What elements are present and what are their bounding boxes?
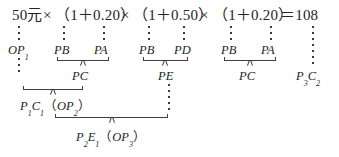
annotation-p2e1-inner-sub: 3 [129, 140, 133, 149]
leader-dots-pe-lower [168, 84, 170, 114]
annotation-pa-2: PA [261, 44, 275, 57]
annotation-p1c1-paren-open: （ [44, 99, 57, 113]
brace-p2e1 [55, 114, 168, 123]
annotation-pb-1: PB [54, 44, 69, 57]
annotation-right-terminal-c: C [308, 69, 316, 83]
equation-segment-result: ＝108 [280, 8, 318, 23]
brace-p2e1-end-right [167, 114, 168, 118]
annotation-pa-1: PA [94, 44, 108, 57]
brace-pc-1-end-right [108, 57, 109, 61]
equation-segment-base: 50元 [12, 8, 43, 23]
annotation-right-terminal: P3C2 [296, 70, 320, 86]
equation-segment-op3: × [200, 8, 209, 23]
annotation-pc-1: PC [72, 70, 88, 83]
annotation-pc-2: PC [239, 70, 255, 83]
leader-dots-pb-2 [148, 26, 150, 43]
annotation-p1c1-inner: OP [57, 99, 74, 113]
leader-dots-pb-3 [230, 26, 232, 43]
leader-dots-right-terminal [312, 26, 314, 68]
annotation-p1c1-sub2: 1 [40, 109, 44, 118]
leader-dots-pa-1 [103, 26, 105, 43]
annotation-pd: PD [174, 44, 191, 57]
annotation-p1c1-c: C [32, 99, 40, 113]
annotation-right-terminal-p: P [296, 69, 304, 83]
annotation-pb-2: PB [139, 44, 154, 57]
leader-dots-op1-lower [18, 58, 20, 73]
leader-dots-pd [183, 26, 185, 43]
annotation-p1c1-sub1: 1 [28, 109, 32, 118]
annotation-right-terminal-sub1: 3 [304, 79, 308, 88]
annotation-pb-3: PB [221, 44, 236, 57]
annotation-right-terminal-sub2: 2 [316, 79, 320, 88]
annotation-p2e1-sub2: 1 [95, 140, 99, 149]
annotation-p1c1-p: P [20, 99, 28, 113]
leader-dots-pa-2 [270, 26, 272, 43]
annotation-p2e1-paren-open: （ [99, 130, 112, 144]
annotation-op1-subscript: 1 [25, 53, 29, 62]
annotation-pe: PE [158, 70, 173, 83]
annotation-p1c1-paren-close: ） [78, 99, 91, 113]
annotation-p2e1-paren-close: ） [133, 130, 146, 144]
brace-pc-2-end-right [275, 57, 276, 61]
annotation-p2e1-p: P [76, 130, 84, 144]
leader-dots-op1 [18, 26, 20, 43]
leader-dots-pb-1 [63, 26, 65, 43]
annotation-p2e1-inner: OP [112, 130, 129, 144]
brace-p1c1 [23, 86, 83, 95]
brace-pc-1 [57, 57, 109, 66]
brace-pe-end-right [187, 57, 188, 61]
brace-p1c1-end-right [82, 86, 83, 90]
equation-segment-op2: × [121, 8, 130, 23]
figure-canvas: 50元 × （1＋0.20） × （1＋0.50） × （1＋0.20） ＝10… [0, 0, 339, 157]
brace-pe [143, 57, 188, 66]
annotation-op1-base: OP [8, 43, 25, 57]
annotation-p2e1: P2E1（OP3） [76, 131, 146, 147]
equation-segment-op1: × [43, 8, 52, 23]
brace-pc-2 [224, 57, 276, 66]
annotation-p2e1-sub1: 2 [84, 140, 88, 149]
